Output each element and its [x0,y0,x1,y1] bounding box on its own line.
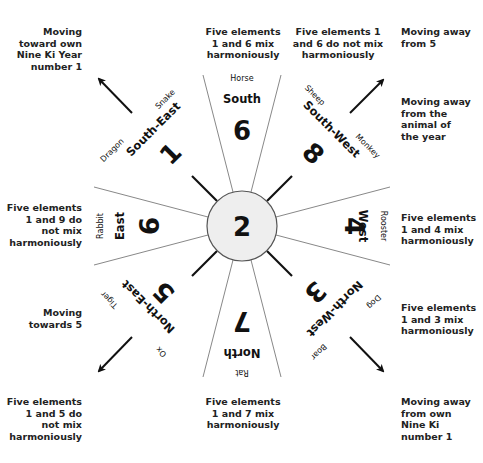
animal-rat: Rat [235,368,248,377]
sector-north: 7 North Rat [224,306,261,377]
animal-rooster: Rooster [379,211,388,242]
sector-west: 4 West Rooster [339,210,388,243]
sector-south-east: 1 South-East Snake Dragon [99,87,188,170]
arrow-lower-right-icon [350,337,383,371]
animal-dragon: Dragon [99,137,126,164]
direction-south: South [223,92,261,106]
number-1: 1 [154,137,188,171]
arrow-upper-right-icon [350,80,383,113]
sector-east: 9 East Rabbit [96,212,163,240]
direction-west: West [356,210,370,243]
animal-tiger: Tiger [98,289,120,311]
sector-north-west: 3 North-West Dog Boar [298,275,382,362]
number-6: 6 [233,116,251,146]
number-7: 7 [233,306,251,336]
direction-east: East [113,212,127,240]
number-8: 8 [296,137,330,171]
animal-ox: Ox [154,344,168,358]
animal-rabbit: Rabbit [96,213,105,239]
direction-north: North [224,346,261,360]
sector-south-west: 8 South-West Sheep Monkey [296,83,382,170]
center-number: 2 [233,212,251,242]
animal-boar: Boar [309,342,329,362]
animal-dog: Dog [365,293,383,311]
number-9: 9 [133,217,163,235]
animal-horse: Horse [230,74,253,83]
sector-north-east: 5 North-East Tiger Ox [98,275,180,358]
sector-south: Horse South 6 [223,74,261,146]
nine-ki-diagram: 2 Horse South 6 7 North Rat 9 East Rabbi… [0,0,483,463]
arrow-lower-left-icon [99,337,132,371]
number-3: 3 [298,275,332,309]
arrow-upper-left-icon [99,79,132,113]
